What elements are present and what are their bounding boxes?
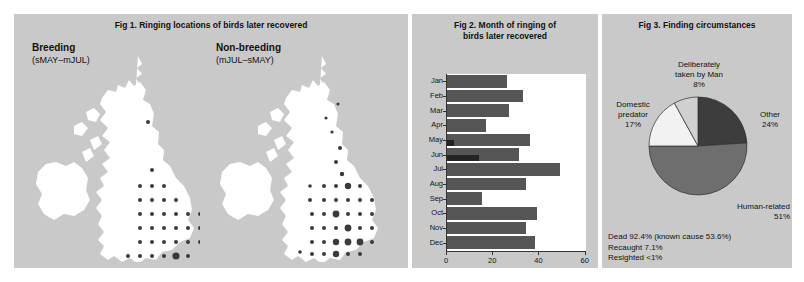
map-recovery-dot [162, 198, 166, 202]
map-recovery-dot [370, 226, 374, 230]
bar-fully-grown [447, 192, 482, 205]
map-non-breeding [214, 52, 384, 262]
map-recovery-dot [186, 240, 190, 244]
y-axis-label-sep: Sep [430, 194, 443, 203]
map-recovery-dot [346, 198, 350, 202]
map-recovery-dot [340, 172, 344, 176]
map-non-breeding-svg [214, 52, 384, 262]
map-recovery-dot [126, 254, 130, 258]
pie-label-deliberate-line1: Deliberately [646, 60, 752, 70]
map-recovery-dot [198, 226, 200, 230]
pie-label-deliberate-line2: taken by Man [646, 70, 752, 80]
map-recovery-dot [322, 252, 326, 256]
x-axis-label-40: 40 [528, 256, 548, 265]
fig3-title: Fig 3. Finding circumstances [602, 20, 792, 31]
map-recovery-dot [358, 252, 362, 256]
map-recovery-dot [336, 102, 339, 105]
y-axis-tick [443, 81, 446, 82]
bar-row [447, 75, 586, 88]
bar-row [447, 236, 586, 249]
map-recovery-dot [308, 198, 312, 202]
map-recovery-dot [370, 212, 374, 216]
y-axis-tick [443, 169, 446, 170]
map-recovery-dot [357, 239, 364, 246]
y-axis-label-oct: Oct [431, 208, 443, 217]
fig3-notes: Dead 92.4% (known cause 53.6%)Recaught 7… [608, 232, 731, 264]
map-recovery-dot [333, 251, 339, 257]
map-breeding [30, 52, 200, 262]
y-axis-label-apr: Apr [431, 120, 443, 129]
bar-fully-grown [447, 75, 507, 88]
map-recovery-dot [346, 212, 350, 216]
map-recovery-dot [324, 116, 327, 119]
bar-row [447, 178, 586, 191]
x-axis-label-60: 60 [575, 256, 595, 265]
bar-fully-grown [447, 178, 526, 191]
map-recovery-dot [345, 225, 352, 232]
map-recovery-dot [150, 226, 154, 230]
map-recovery-dot [345, 183, 351, 189]
map-recovery-dot [322, 226, 326, 230]
uk-ireland-landmass [220, 56, 378, 262]
map-recovery-dot [298, 250, 302, 254]
panel-fig2: Fig 2. Month of ringing of birds later r… [412, 14, 598, 268]
bar-fully-grown [447, 104, 509, 117]
bar-pulli [447, 140, 454, 146]
pie-label-other: Other 24% [750, 110, 790, 130]
map-recovery-dot [310, 212, 314, 216]
fig2-title-line2: birds later recovered [412, 31, 598, 42]
pie-label-deliberate-value: 8% [646, 80, 752, 90]
fig3-note-line-1: Dead 92.4% (known cause 53.6%) [608, 232, 731, 243]
map-recovery-dot [186, 212, 190, 216]
map-recovery-dot [174, 212, 178, 216]
panel-fig3: Fig 3. Finding circumstances Deliberatel… [602, 14, 792, 268]
bar-fully-grown [447, 119, 486, 132]
fig3-pie-chart [648, 96, 748, 196]
y-axis-tick [443, 199, 446, 200]
map-recovery-dot [162, 212, 166, 216]
map-breeding-svg [30, 52, 200, 262]
map-recovery-dot [334, 198, 338, 202]
map-recovery-dot [150, 240, 154, 244]
uk-ireland-landmass [36, 56, 194, 262]
y-axis-label-feb: Feb [430, 91, 443, 100]
pie-label-domestic-value: 17% [604, 120, 662, 130]
y-axis-tick [443, 213, 446, 214]
y-axis-label-jul: Jul [433, 164, 443, 173]
map-recovery-dot [138, 254, 142, 258]
map-recovery-dot [174, 198, 178, 202]
y-axis-label-aug: Aug [430, 179, 443, 188]
map-recovery-dot [162, 254, 166, 258]
pie-label-domestic-predator: Domestic predator 17% [604, 100, 662, 130]
panel-fig1: Fig 1. Ringing locations of birds later … [14, 14, 408, 268]
bar-fully-grown [447, 236, 535, 249]
fig3-note-line-3: Resighted <1% [608, 253, 731, 264]
y-axis-tick [443, 155, 446, 156]
fig2-title-line1: Fig 2. Month of ringing of [412, 20, 598, 31]
map-recovery-dot [333, 211, 340, 218]
fig1-title: Fig 1. Ringing locations of birds later … [14, 20, 408, 31]
pie-label-human-value: 51% [706, 212, 790, 222]
y-axis-tick [443, 140, 446, 141]
y-axis-tick [443, 243, 446, 244]
bar-row [447, 163, 586, 176]
map-recovery-dot [162, 184, 166, 188]
map-recovery-dot [334, 226, 338, 230]
bar-row [447, 207, 586, 220]
bar-pulli [447, 155, 479, 161]
x-axis-tick [585, 252, 586, 255]
map-recovery-dot [150, 168, 154, 172]
map-recovery-dot [358, 212, 362, 216]
bar-fully-grown [447, 90, 523, 103]
x-axis-tick [492, 252, 493, 255]
map-recovery-dot [334, 160, 338, 164]
map-recovery-dot [308, 184, 312, 188]
bar-fully-grown [447, 163, 560, 176]
map-recovery-dot [310, 252, 314, 256]
pie-label-human-name: Human-related [706, 202, 790, 212]
bar-row [447, 148, 586, 161]
map-recovery-dot [370, 240, 374, 244]
bar-row [447, 104, 586, 117]
y-axis-label-jan: Jan [431, 76, 443, 85]
map-recovery-dot [162, 240, 166, 244]
